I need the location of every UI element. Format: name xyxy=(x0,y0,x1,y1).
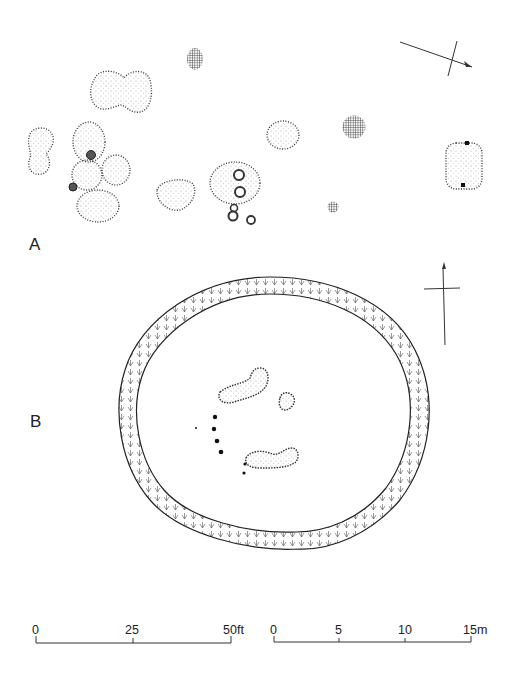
posthole-marker xyxy=(247,216,255,224)
panel-label-b: B xyxy=(30,412,41,431)
ring-enclosure xyxy=(119,277,429,549)
pit-feature xyxy=(91,71,152,112)
panel-a: A xyxy=(29,41,482,254)
posthole xyxy=(215,439,220,444)
hatched-pit xyxy=(343,116,366,139)
scale-tick-label: 5 xyxy=(335,623,342,637)
hatched-pit xyxy=(328,202,339,213)
posthole xyxy=(242,471,245,474)
posthole xyxy=(213,415,217,419)
scale-bar-feet: 0 25 50ft xyxy=(32,623,244,643)
posthole xyxy=(195,427,197,429)
posthole-marker xyxy=(87,151,96,160)
central-feature xyxy=(246,448,298,468)
central-feature xyxy=(219,368,268,403)
posthole xyxy=(212,427,216,431)
scale-tick-label: 15m xyxy=(463,623,487,637)
posthole-marker xyxy=(461,183,465,187)
scale-tick-label: 0 xyxy=(270,623,277,637)
pit-feature xyxy=(210,162,260,204)
pit-feature xyxy=(157,180,195,211)
panel-label-a: A xyxy=(29,235,41,254)
posthole xyxy=(243,462,246,465)
pit-feature xyxy=(29,128,54,174)
pit-feature xyxy=(446,143,482,189)
pit-feature xyxy=(102,155,130,185)
posthole-marker xyxy=(229,212,238,221)
posthole-marker xyxy=(234,170,244,180)
scale-tick-label: 0 xyxy=(32,623,39,637)
north-arrow-icon xyxy=(400,41,472,76)
scale-bar-metres: 0 5 10 15m xyxy=(270,623,487,642)
posthole xyxy=(219,450,224,455)
central-feature xyxy=(279,393,294,410)
scale-tick-label: 50ft xyxy=(223,623,244,637)
posthole-marker xyxy=(465,141,469,145)
site-plan: A B 0 25 50ft 0 5 10 15m xyxy=(0,0,511,677)
posthole-marker xyxy=(231,205,238,212)
posthole-marker xyxy=(69,183,77,191)
posthole-marker xyxy=(235,187,245,197)
scale-tick-label: 10 xyxy=(398,623,412,637)
pit-feature xyxy=(267,121,299,149)
panel-b: B xyxy=(30,262,460,549)
scale-tick-label: 25 xyxy=(125,623,139,637)
pit-feature xyxy=(77,190,119,222)
hatched-pit xyxy=(187,48,203,70)
north-arrow-icon xyxy=(424,262,460,345)
